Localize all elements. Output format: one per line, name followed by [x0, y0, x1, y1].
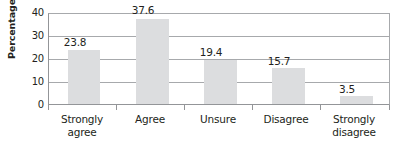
bar-strongly-disagree: [340, 96, 373, 104]
x-tick-5: [389, 105, 390, 110]
x-tick-3: [252, 105, 253, 110]
x-tick-1: [116, 105, 117, 110]
bar-disagree: [272, 68, 305, 104]
bar-strongly-agree: [68, 50, 100, 104]
x-label-line-2: agree: [47, 126, 117, 139]
x-label-line-2: disagree: [319, 126, 389, 139]
x-tick-0: [48, 105, 49, 110]
x-label-line-1: Strongly: [319, 113, 389, 126]
data-label-strongly-disagree: 3.5: [319, 84, 375, 95]
bar-agree: [136, 19, 169, 105]
bar-chart: Percentage 40 30 20 10 0 23.8 37.6 19.4 …: [0, 0, 409, 153]
y-axis-tick-labels: 40 30 20 10 0: [22, 0, 44, 153]
data-label-agree: 37.6: [115, 5, 171, 16]
data-label-disagree: 15.7: [251, 56, 307, 67]
x-tick-2: [184, 105, 185, 110]
x-label-line-1: Disagree: [251, 113, 321, 126]
x-label-line-1: Unsure: [183, 113, 253, 126]
y-tick-label-30: 30: [24, 31, 44, 41]
y-tick-label-40: 40: [24, 8, 44, 18]
x-tick-4: [320, 105, 321, 110]
y-tick-label-0: 0: [24, 100, 44, 110]
x-label-unsure: Unsure: [183, 113, 253, 126]
y-tick-label-20: 20: [24, 54, 44, 64]
x-label-line-1: Agree: [115, 113, 185, 126]
x-label-disagree: Disagree: [251, 113, 321, 126]
data-label-unsure: 19.4: [183, 47, 239, 58]
data-label-strongly-agree: 23.8: [47, 37, 103, 48]
y-axis-title: Percentage: [6, 0, 20, 74]
bar-unsure: [204, 60, 237, 104]
x-label-agree: Agree: [115, 113, 185, 126]
x-label-strongly-agree: Strongly agree: [47, 113, 117, 139]
x-label-strongly-disagree: Strongly disagree: [319, 113, 389, 139]
y-tick-label-10: 10: [24, 77, 44, 87]
x-label-line-1: Strongly: [47, 113, 117, 126]
